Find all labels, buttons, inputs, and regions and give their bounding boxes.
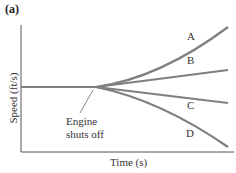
annotation-pointer — [80, 90, 93, 113]
curve-b — [96, 70, 228, 87]
annotation-line-1: Engine — [66, 115, 104, 128]
label-c: C — [187, 99, 194, 111]
y-axis-label: Speed (ft/s) — [7, 68, 19, 128]
chart-canvas — [0, 0, 236, 173]
label-d: D — [186, 127, 194, 139]
curve-c — [96, 87, 228, 103]
label-a: A — [187, 30, 195, 42]
engine-annotation: Engine shuts off — [66, 115, 104, 141]
label-b: B — [187, 54, 194, 66]
annotation-line-2: shuts off — [66, 128, 104, 141]
x-axis-label: Time (s) — [110, 156, 147, 168]
